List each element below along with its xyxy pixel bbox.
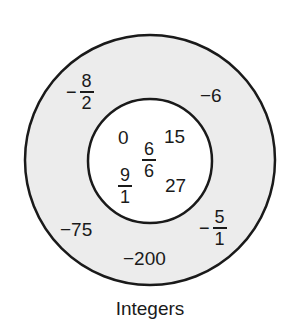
- diagram-title: Integers: [0, 298, 289, 320]
- fraction-6-over-6: 6 6: [142, 140, 156, 180]
- value-neg-200: −200: [123, 249, 166, 268]
- value-15: 15: [164, 127, 185, 146]
- fraction-neg-8-over-2: − 8 2: [66, 72, 94, 112]
- value-0: 0: [118, 128, 129, 147]
- fraction-neg-5-over-1: − 5 1: [199, 208, 227, 248]
- value-neg-75: −75: [60, 220, 92, 239]
- fraction-9-over-1: 9 1: [118, 166, 132, 206]
- value-27: 27: [165, 176, 186, 195]
- value-neg-6: −6: [200, 86, 222, 105]
